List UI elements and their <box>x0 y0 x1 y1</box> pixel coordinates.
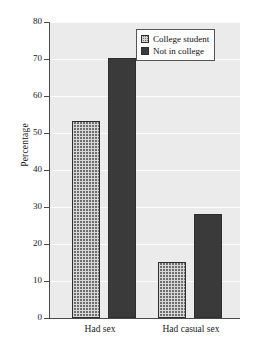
y-tick-mark-50 <box>44 133 49 134</box>
gridline-60 <box>50 96 240 97</box>
y-tick-mark-10 <box>44 281 49 282</box>
y-tick-label-50: 50 <box>12 128 42 137</box>
dotted-swatch-icon <box>141 35 149 43</box>
y-axis-line <box>49 22 50 319</box>
y-tick-label-70: 70 <box>12 54 42 63</box>
y-tick-label-60: 60 <box>12 91 42 100</box>
y-tick-mark-40 <box>44 170 49 171</box>
y-tick-mark-20 <box>44 244 49 245</box>
y-tick-mark-0 <box>44 318 49 319</box>
bar-had-sex-not-in-college <box>108 58 136 318</box>
y-tick-mark-70 <box>44 59 49 60</box>
legend-item-not-in-college: Not in college <box>141 45 209 57</box>
plot-area <box>50 22 240 318</box>
legend-item-college-student: College student <box>141 33 209 45</box>
bar-had-casual-sex-college-student <box>158 262 186 318</box>
legend-label-college-student: College student <box>153 34 209 45</box>
y-tick-mark-80 <box>44 22 49 23</box>
y-tick-label-30: 30 <box>12 202 42 211</box>
solid-swatch-icon <box>141 47 149 55</box>
bar-chart: Percentage 80 70 60 50 40 30 20 10 0 Had… <box>0 0 260 350</box>
x-category-label-had-casual-sex: Had casual sex <box>146 324 236 334</box>
bar-had-casual-sex-not-in-college <box>194 214 222 318</box>
y-tick-label-0: 0 <box>12 313 42 322</box>
x-category-label-had-sex: Had sex <box>60 324 140 334</box>
y-tick-mark-60 <box>44 96 49 97</box>
gridline-80 <box>50 22 240 23</box>
y-tick-mark-30 <box>44 207 49 208</box>
legend: College student Not in college <box>136 29 215 61</box>
y-tick-label-40: 40 <box>12 165 42 174</box>
y-tick-label-10: 10 <box>12 276 42 285</box>
y-tick-label-20: 20 <box>12 239 42 248</box>
bar-had-sex-college-student <box>72 121 100 318</box>
legend-label-not-in-college: Not in college <box>153 46 204 57</box>
y-tick-label-80: 80 <box>12 17 42 26</box>
x-axis-line <box>49 318 240 319</box>
y-axis-title: Percentage <box>20 85 30 205</box>
